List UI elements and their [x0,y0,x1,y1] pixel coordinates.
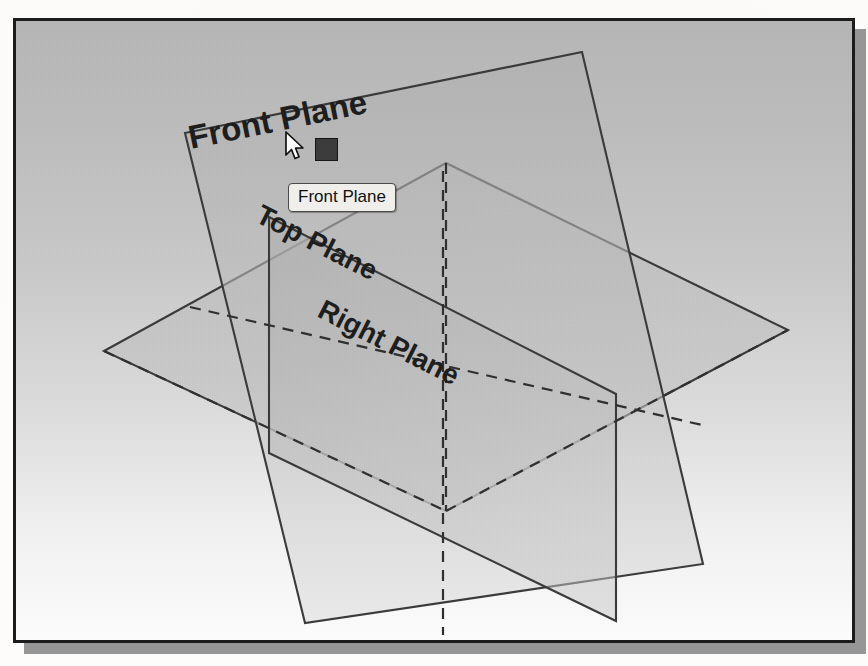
arrow-cursor [284,131,308,163]
cad-viewport-frame: Front Plane Top Plane Right Plane Front … [13,18,855,643]
scanned-page: s on the Document Properties ne drawing … [0,0,868,666]
plane-tooltip-label: Front Plane [298,187,386,206]
reference-planes-drawing: Front Plane Top Plane Right Plane [16,21,855,643]
arrow-cursor-glyph [286,132,303,159]
cad-graphics-area[interactable]: Front Plane Top Plane Right Plane Front … [16,21,852,640]
plane-corner-handle[interactable] [315,138,338,161]
plane-tooltip: Front Plane [288,183,396,212]
